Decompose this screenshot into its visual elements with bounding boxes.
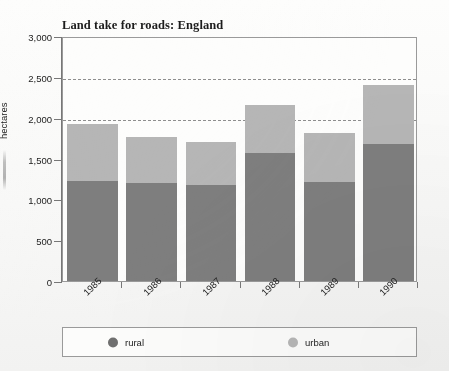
- y-axis-label-2500: 2,500: [6, 72, 52, 83]
- bar-segment-rural-1985: [67, 181, 118, 281]
- bar-segment-urban-1988: [245, 105, 296, 153]
- x-tick-1990: [417, 282, 418, 288]
- legend-item-rural: rural: [108, 337, 144, 348]
- y-axis-label-1000: 1,000: [6, 195, 52, 206]
- legend-marker-rural-icon: [108, 337, 118, 347]
- bar-segment-rural-1986: [126, 183, 177, 281]
- y-tick-2000: [54, 119, 62, 120]
- bar-segment-rural-1989: [304, 182, 355, 281]
- legend-label-rural: rural: [125, 337, 144, 348]
- bar-segment-urban-1989: [304, 133, 355, 182]
- x-tick-1988: [299, 282, 300, 288]
- bar-1990: [363, 85, 414, 281]
- bar-1985: [67, 124, 118, 281]
- y-axis-label-0: 0: [6, 277, 52, 288]
- y-tick-1500: [54, 160, 62, 161]
- chart-legend: rural urban: [62, 327, 417, 357]
- y-tick-500: [54, 241, 62, 242]
- gridline-2500: [63, 79, 416, 80]
- bar-1988: [245, 105, 296, 281]
- chart-title: Land take for roads: England: [62, 18, 223, 33]
- bar-segment-urban-1985: [67, 124, 118, 181]
- y-tick-2500: [54, 78, 62, 79]
- x-tick-1986: [180, 282, 181, 288]
- legend-marker-urban-icon: [288, 337, 298, 347]
- bar-segment-urban-1990: [363, 85, 414, 144]
- x-tick-1985: [121, 282, 122, 288]
- bar-segment-rural-1988: [245, 153, 296, 281]
- plot-area: [63, 38, 416, 281]
- y-axis-label-3000: 3,000: [6, 32, 52, 43]
- y-tick-3000: [54, 37, 62, 38]
- plot-frame: [62, 37, 417, 282]
- y-axis-label-500: 500: [6, 236, 52, 247]
- legend-label-urban: urban: [305, 337, 329, 348]
- x-tick-1989: [358, 282, 359, 288]
- bar-segment-urban-1987: [186, 142, 237, 186]
- y-tick-0: [54, 282, 62, 283]
- bar-segment-rural-1990: [363, 144, 414, 281]
- legend-item-urban: urban: [288, 337, 329, 348]
- x-tick-1987: [240, 282, 241, 288]
- bar-1987: [186, 142, 237, 281]
- bar-segment-rural-1987: [186, 185, 237, 281]
- y-tick-1000: [54, 200, 62, 201]
- bar-1989: [304, 133, 355, 281]
- bar-1986: [126, 137, 177, 281]
- y-axis-label-1500: 1,500: [6, 154, 52, 165]
- bar-segment-urban-1986: [126, 137, 177, 182]
- y-axis-label-2000: 2,000: [6, 113, 52, 124]
- chart-page: Land take for roads: England hectares ru…: [0, 0, 449, 371]
